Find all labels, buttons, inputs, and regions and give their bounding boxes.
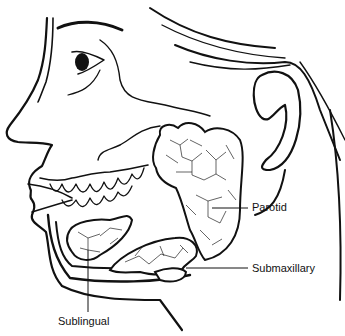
salivary-gland-diagram: Parotid Submaxillary Sublingual xyxy=(0,0,345,336)
submaxillary-gland xyxy=(110,238,197,282)
eyebrow xyxy=(58,22,122,30)
upper-gum xyxy=(40,165,148,180)
orbit-line xyxy=(68,70,100,95)
hair-strand xyxy=(300,62,345,140)
eye-iris xyxy=(75,53,89,71)
ear xyxy=(254,72,300,170)
label-submaxillary: Submaxillary xyxy=(252,263,315,274)
label-parotid: Parotid xyxy=(252,202,287,213)
sublingual-gland xyxy=(67,216,132,260)
maxilla-line xyxy=(98,126,160,160)
label-sublingual: Sublingual xyxy=(58,316,109,327)
head-illustration xyxy=(0,0,345,336)
lower-lip xyxy=(32,200,72,212)
